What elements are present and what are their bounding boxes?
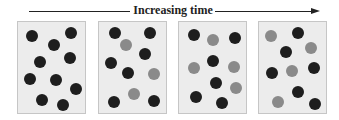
dark-particle bbox=[122, 67, 134, 79]
gray-particle bbox=[265, 30, 277, 42]
dark-particle bbox=[26, 30, 38, 42]
dark-particle bbox=[50, 74, 62, 86]
dark-particle bbox=[34, 56, 46, 68]
dark-particle bbox=[24, 73, 36, 85]
dark-particle bbox=[292, 27, 304, 39]
gray-particle bbox=[272, 96, 284, 108]
gray-particle bbox=[128, 88, 140, 100]
gray-particle bbox=[230, 82, 242, 94]
diagram-title: Increasing time bbox=[133, 3, 213, 17]
dark-particle bbox=[105, 57, 117, 69]
dark-particle bbox=[188, 29, 200, 41]
dark-particle bbox=[266, 67, 278, 79]
dark-particle bbox=[36, 94, 48, 106]
particle-box-2 bbox=[98, 21, 167, 114]
gray-particle bbox=[207, 34, 219, 46]
dark-particle bbox=[216, 97, 228, 109]
particle-box-3 bbox=[178, 21, 247, 114]
dark-particle bbox=[48, 39, 60, 51]
dark-particle bbox=[139, 48, 151, 60]
gray-particle bbox=[188, 62, 200, 74]
dark-particle bbox=[309, 98, 321, 110]
dark-particle bbox=[108, 96, 120, 108]
gray-particle bbox=[120, 39, 132, 51]
dark-particle bbox=[148, 95, 160, 107]
particle-box-1 bbox=[17, 21, 86, 114]
dark-particle bbox=[65, 27, 77, 39]
arrowhead-icon bbox=[311, 8, 320, 14]
gray-particle bbox=[286, 65, 298, 77]
gray-particle bbox=[305, 42, 317, 54]
dark-particle bbox=[190, 91, 202, 103]
dark-particle bbox=[308, 62, 320, 74]
dark-particle bbox=[64, 52, 76, 64]
dark-particle bbox=[109, 27, 121, 39]
dark-particle bbox=[207, 55, 219, 67]
dark-particle bbox=[144, 27, 156, 39]
dark-particle bbox=[57, 99, 69, 111]
dark-particle bbox=[70, 83, 82, 95]
gray-particle bbox=[228, 61, 240, 73]
time-arrow-left-line bbox=[29, 11, 130, 12]
time-arrow-right-line bbox=[215, 11, 312, 12]
particle-box-4 bbox=[258, 21, 327, 114]
dark-particle bbox=[210, 77, 222, 89]
dark-particle bbox=[292, 86, 304, 98]
gray-particle bbox=[148, 68, 160, 80]
dark-particle bbox=[280, 46, 292, 58]
dark-particle bbox=[229, 32, 241, 44]
